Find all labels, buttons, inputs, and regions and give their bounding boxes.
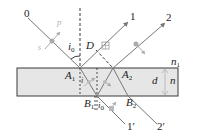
p-polarization-arrow-ray2 [136, 44, 145, 54]
label-point-A2: A2 [122, 69, 132, 82]
label-ray-2: 2 [166, 12, 172, 23]
label-ray-2prime: 2′ [157, 121, 165, 132]
label-pol-p: p [57, 18, 62, 27]
label-index-n: n [170, 75, 176, 86]
label-angle-i0: i0 [68, 41, 75, 54]
label-thickness-d: d [152, 75, 158, 86]
ray-2-reflected [113, 23, 165, 68]
thin-film-diagram: 0 1 2 p s i0 D A1 i A2 B1 i0 B2 1′ 2′ n1… [0, 0, 201, 140]
label-ray-1prime: 1′ [127, 121, 135, 132]
label-point-B1: B1 [84, 98, 94, 111]
label-point-B2: B2 [126, 97, 136, 110]
label-angle-i0-bottom: i0 [98, 101, 104, 112]
label-point-A1: A1 [65, 70, 75, 83]
label-index-n1: n1 [171, 56, 180, 69]
angle-arc-i0 [71, 56, 80, 59]
label-ray-0: 0 [24, 8, 30, 19]
label-angle-i-inner: i [81, 77, 83, 85]
label-ray-1: 1 [130, 11, 136, 22]
p-polarization-arrow-ray0-back [45, 41, 52, 49]
p-polarization-arrow-ray0 [52, 32, 60, 41]
label-pol-s: s [38, 44, 41, 52]
label-point-D: D [86, 40, 94, 51]
wavefront-D-A2 [96, 50, 113, 68]
